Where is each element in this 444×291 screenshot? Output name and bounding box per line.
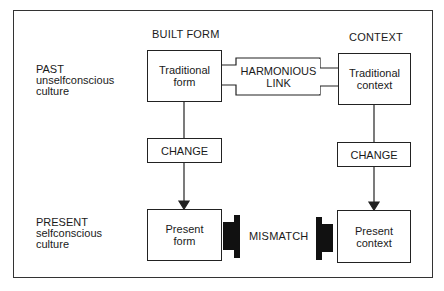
column-header-context: CONTEXT xyxy=(349,32,403,43)
row-label-past: PAST unselfconscious culture xyxy=(36,64,114,97)
box-present-form-label: Present form xyxy=(166,223,204,247)
box-change-left-label: CHANGE xyxy=(161,145,208,157)
box-present-context-label: Present context xyxy=(355,225,393,249)
mismatch-block-left-stub xyxy=(223,222,235,250)
arrowhead-right xyxy=(369,202,379,210)
row-label-present: PRESENT selfconscious culture xyxy=(36,217,102,250)
box-change-right: CHANGE xyxy=(337,142,411,167)
box-traditional-context: Traditional context xyxy=(338,53,411,105)
box-present-context: Present context xyxy=(337,210,411,263)
column-header-built-form: BUILT FORM xyxy=(152,29,220,40)
box-change-right-label: CHANGE xyxy=(350,149,397,161)
box-traditional-form-label: Traditional form xyxy=(159,64,210,88)
box-traditional-form: Traditional form xyxy=(147,50,222,102)
arrowhead-left xyxy=(179,201,189,209)
mismatch-block-left-bar xyxy=(234,215,240,258)
box-traditional-context-label: Traditional context xyxy=(349,67,400,91)
box-harmonious-link: HARMONIOUS LINK xyxy=(237,59,320,94)
box-harmonious-link-label: HARMONIOUS LINK xyxy=(241,65,317,89)
box-change-left: CHANGE xyxy=(147,138,222,163)
mismatch-block-right-stub xyxy=(321,224,333,252)
box-present-form: Present form xyxy=(147,209,222,261)
mismatch-label: MISMATCH xyxy=(249,231,308,242)
